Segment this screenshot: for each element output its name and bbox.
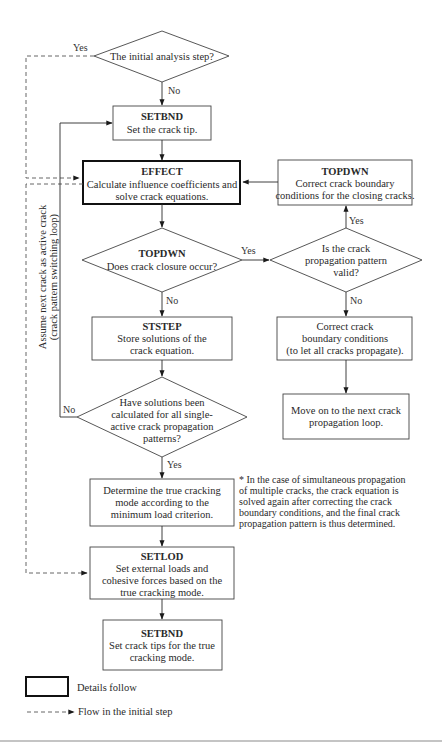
move-on-text-2: propagation loop. [309,417,383,428]
flowchart: The initial analysis step? Yes No SETBND… [0,0,442,745]
effect-title: EFFECT [141,166,182,177]
effect-text-1: Calculate influence coefficients and [87,179,238,190]
all-decision-text-3: active crack propagation [110,421,214,432]
all-yes-label: Yes [167,459,182,470]
pattern-valid-decision: Is the crack propagation pattern valid? [270,228,422,292]
setlod-text-2: cohesive forces based on the [102,575,222,586]
loop-label: Assume next crack as active crack (crack… [37,204,60,349]
valid-decision-text-1: Is the crack [322,243,371,254]
valid-yes-label: Yes [349,215,364,226]
correct-bc-text-3: (to let all cracks propagate). [286,345,403,357]
effect-box: EFFECT Calculate influence coefficients … [83,161,240,204]
closure-decision-title: TOPDWN [138,248,185,259]
correct-bc-text-1: Correct crack [317,321,375,332]
setlod-title: SETLOD [141,551,184,562]
loop-label-line-2: (crack pattern switching loop) [48,213,60,340]
setlod-text-3: true cracking mode. [120,587,204,598]
initial-decision-text: The initial analysis step? [110,51,214,62]
crack-closure-decision: TOPDWN Does crack closure occur? [82,228,242,292]
all-decision-text-1: Have solutions been [119,397,205,408]
closure-decision-text: Does crack closure occur? [107,261,218,272]
determine-text-2: mode according to the [115,497,209,508]
topdwn-correct-title: TOPDWN [321,166,368,177]
ststep-text-1: Store solutions of the [117,333,207,344]
valid-decision-text-2: propagation pattern [305,255,388,266]
determine-mode-box: Determine the true cracking mode accordi… [90,479,234,526]
effect-text-2: solve crack equations. [115,191,208,202]
setbnd-bottom-box: SETBND Set crack tips for the true crack… [103,620,222,670]
topdwn-correct-text-2: conditions for the closing cracks. [275,190,414,201]
ststep-title: STSTEP [142,321,182,332]
loop-label-line-1: Assume next crack as active crack [37,204,48,349]
initial-analysis-decision: The initial analysis step? [94,31,229,82]
move-on-box: Move on to the next crack propagation lo… [283,394,409,439]
ststep-text-2: crack equation. [130,345,194,356]
footnote-line-1: * In the case of simultaneous propagatio… [239,474,406,485]
setlod-text-1: Set external loads and [116,563,209,574]
footnote-line-3: solved again after correcting the crack [239,496,392,507]
footnote-line-5: propagation pattern is thus determined. [239,518,395,529]
footnote-line-4: boundary conditions, and the final crack [239,507,400,518]
all-no-label: No [63,404,75,415]
all-decision-text-2: calculated for all single- [111,409,213,420]
legend-dashed-arrow-label: Flow in the initial step [78,706,173,717]
setbnd-bottom-text-2: cracking mode. [130,652,195,663]
legend: Details follow Flow in the initial step [26,677,173,717]
legend-bold-box [26,677,68,696]
ststep-box: STSTEP Store solutions of the crack equa… [92,317,232,360]
valid-no-label: No [350,295,362,306]
all-solutions-decision: Have solutions been calculated for all s… [77,377,247,457]
setbnd-bottom-text-1: Set crack tips for the true [109,640,215,651]
valid-decision-text-3: valid? [333,267,359,278]
legend-bold-box-label: Details follow [77,682,137,693]
determine-text-1: Determine the true cracking [103,485,221,496]
setbnd-bottom-title: SETBND [141,628,183,639]
footnote: * In the case of simultaneous propagatio… [239,474,406,529]
setbnd-top-text: Set the crack tip. [127,124,198,135]
initial-no-label: No [168,85,180,96]
closure-yes-label: Yes [241,245,256,256]
correct-boundary-box: Correct crack boundary conditions (to le… [277,317,412,360]
initial-yes-label: Yes [73,42,88,53]
topdwn-correct-text-1: Correct crack boundary [295,178,395,189]
footnote-line-2: of multiple cracks, the crack equation i… [239,485,399,496]
setlod-box: SETLOD Set external loads and cohesive f… [90,547,234,599]
setbnd-top-title: SETBND [141,111,183,122]
all-decision-text-4: patterns? [143,433,181,444]
topdwn-correct-box: TOPDWN Correct crack boundary conditions… [275,160,414,205]
move-on-text-1: Move on to the next crack [291,405,402,416]
closure-no-label: No [166,295,178,306]
correct-bc-text-2: boundary conditions [302,333,388,344]
determine-text-3: minimum load criterion. [111,509,213,520]
setbnd-top-box: SETBND Set the crack tip. [113,106,211,140]
